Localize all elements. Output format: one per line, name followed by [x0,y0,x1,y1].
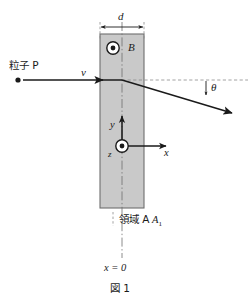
figure-container: 粒子 P d B v θ y x z 領域 A A1 x = 0 図 1 [0,0,252,299]
region-label-subscript: 1 [158,220,162,228]
region-label-text: 領域 A [119,213,150,225]
axis-x-label: x [164,148,169,159]
region-label: 領域 A A1 [119,214,162,228]
particle-dot [15,77,20,82]
origin-label: x = 0 [104,263,126,274]
particle-label: 粒子 P [9,60,39,71]
magnetic-field-label: B [128,42,135,53]
velocity-label: v [81,67,86,78]
figure-caption: 図 1 [110,283,130,294]
width-dimension-label: d [118,11,124,22]
axis-z-label: z [108,150,112,159]
physics-diagram [0,0,252,299]
magnetic-field-symbol-dot [111,46,116,51]
angle-theta-label: θ [211,82,216,93]
axis-y-label: y [110,120,115,131]
z-axis-symbol-dot [120,144,125,149]
